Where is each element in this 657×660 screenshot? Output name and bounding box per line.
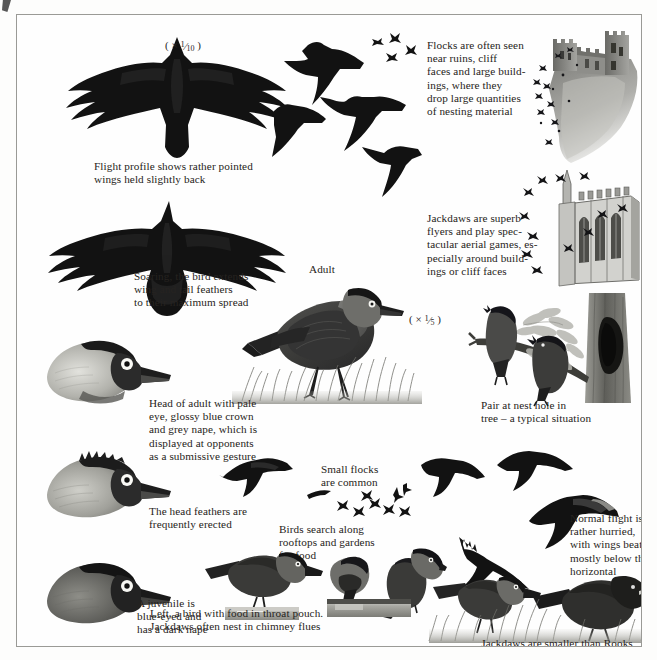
caption-normal-flight: Normal flight is rather hurried, with wi… bbox=[570, 512, 642, 578]
jackdaw-and-rook-on-ground bbox=[429, 571, 642, 643]
corner-ink-mark bbox=[2, 0, 11, 12]
jackdaw-in-flight-small-3 bbox=[495, 449, 575, 493]
adult-jackdaw-standing-in-grass bbox=[232, 279, 422, 404]
distant-flock-silhouettes bbox=[307, 483, 417, 519]
plate-page: ( × 1⁄10 ) Flight profile shows rather p… bbox=[0, 0, 657, 660]
caption-head-of-adult: Head of adult with pale eye, glossy blue… bbox=[149, 397, 334, 463]
label-adult: Adult bbox=[309, 263, 335, 276]
cathedral-building-with-jackdaws bbox=[545, 170, 642, 288]
jackdaw-in-flight-small-2 bbox=[417, 455, 487, 499]
caption-pair-at-nest: Pair at nest hole in tree – a typical si… bbox=[481, 399, 621, 425]
caption-smaller-than-rooks: Jackdaws are smaller than Rooks bbox=[447, 637, 642, 647]
caption-flocks-ruins: Flocks are often seen near ruins, cliff … bbox=[427, 39, 547, 118]
scale-adult: ( × 1⁄5 ) bbox=[409, 313, 441, 326]
caption-superb-flyers: Jackdaws are superb flyers and play spec… bbox=[427, 212, 549, 278]
illustration-plate: ( × 1⁄10 ) Flight profile shows rather p… bbox=[16, 14, 642, 647]
pair-of-jackdaws-at-nest-hole-in-tree bbox=[467, 293, 642, 403]
jackdaws-in-flight-group bbox=[272, 29, 422, 209]
jackdaw-in-flight-small-1 bbox=[217, 455, 297, 499]
castle-ruins-with-jackdaw-flock bbox=[533, 31, 642, 166]
caption-throat-pouch: Left, a bird with food in throat pouch. … bbox=[150, 607, 400, 633]
scale-flight-profile: ( × 1⁄10 ) bbox=[165, 39, 201, 52]
